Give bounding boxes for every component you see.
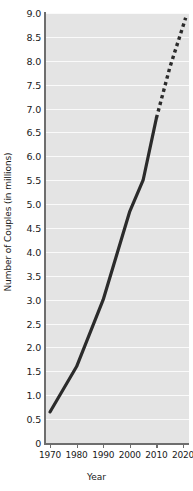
gridline [45,228,189,229]
y-axis-line [44,12,46,444]
x-tick-mark [130,443,131,448]
y-tick-label: 7.0 [11,103,41,114]
x-axis-line [44,443,189,445]
y-tick-label: 8.5 [11,31,41,42]
gridline [45,419,189,420]
x-tick-label: 2020 [172,450,193,460]
y-tick-label: 1.5 [11,366,41,377]
gridline [45,156,189,157]
y-tick-label: 6.5 [11,127,41,138]
x-tick-mark [183,443,184,448]
y-tick-label: 4.5 [11,223,41,234]
gridline [45,85,189,86]
x-tick-mark [103,443,104,448]
x-axis-label: Year [0,472,193,482]
gridline [45,276,189,277]
x-tick-label: 1970 [39,450,61,460]
x-tick-label: 1990 [92,450,114,460]
gridline [45,37,189,38]
gridline [45,300,189,301]
y-tick-label: 2.0 [11,342,41,353]
x-tick-mark [50,443,51,448]
gridline [45,180,189,181]
gridline [45,109,189,110]
gridline [45,324,189,325]
y-tick-label: 1.0 [11,390,41,401]
gridline [45,395,189,396]
x-tick-label: 2000 [119,450,141,460]
y-tick-label: 5.5 [11,175,41,186]
y-tick-label: 3.0 [11,294,41,305]
y-axis-tick-labels: 00.51.01.52.02.53.03.54.04.55.05.56.06.5… [11,0,41,491]
y-tick-label: 6.0 [11,151,41,162]
y-tick-label: 0.5 [11,414,41,425]
gridline [45,13,189,14]
y-tick-label: 5.0 [11,199,41,210]
gridline [45,371,189,372]
gridline [45,61,189,62]
plot-area [45,13,189,443]
gridline [45,252,189,253]
y-tick-label: 3.5 [11,270,41,281]
y-tick-label: 0 [11,438,41,449]
gridline [45,204,189,205]
x-tick-mark [156,443,157,448]
y-tick-label: 2.5 [11,318,41,329]
y-tick-label: 4.0 [11,246,41,257]
x-tick-label: 2010 [145,450,167,460]
y-tick-label: 9.0 [11,8,41,19]
gridline [45,347,189,348]
x-tick-label: 1980 [66,450,88,460]
y-tick-label: 8.0 [11,55,41,66]
line-chart: Number of Couples (in millions) 00.51.01… [0,0,193,491]
x-tick-mark [77,443,78,448]
y-tick-label: 7.5 [11,79,41,90]
gridline [45,132,189,133]
